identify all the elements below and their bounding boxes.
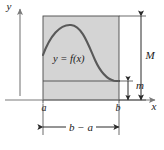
min-dimension-label: m bbox=[136, 79, 144, 91]
width-dimension-label: b − a bbox=[69, 121, 93, 133]
figure-container: y x y = f(x) a b M m b − a bbox=[0, 0, 164, 150]
tick-label-b: b bbox=[116, 102, 121, 113]
max-dimension-label: M bbox=[144, 49, 155, 61]
tick-label-a: a bbox=[42, 102, 47, 113]
curve-equation-label: y = f(x) bbox=[52, 53, 85, 65]
y-axis-label: y bbox=[6, 0, 12, 12]
x-axis-label: x bbox=[151, 100, 157, 112]
function-bounds-diagram: y x y = f(x) a b M m b − a bbox=[0, 0, 164, 150]
